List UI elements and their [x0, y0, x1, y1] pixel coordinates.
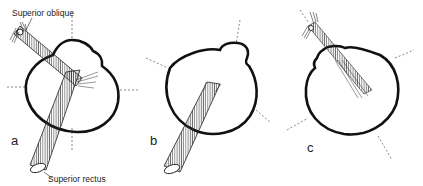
panel-letter-c: c	[307, 140, 314, 155]
superior-oblique-muscle-a	[10, 22, 98, 88]
eyeball-c	[306, 46, 398, 135]
panel-letter-a: a	[11, 133, 19, 148]
panel-letter-b: b	[150, 133, 157, 148]
leader-superior-oblique	[26, 18, 32, 30]
panel-b: b	[146, 20, 270, 175]
label-superior-rectus: Superior rectus	[48, 174, 106, 184]
superior-oblique-muscle-c	[302, 12, 372, 98]
panel-a: Superior oblique Superior rectus a	[7, 8, 138, 184]
eye-muscle-diagram: Superior oblique Superior rectus a b	[0, 0, 423, 186]
superior-rectus-muscle-a	[29, 70, 80, 174]
panel-c: c	[287, 10, 414, 160]
superior-rectus-muscle-b	[163, 82, 221, 175]
label-superior-oblique: Superior oblique	[12, 8, 74, 18]
